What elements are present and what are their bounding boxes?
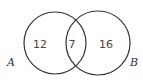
set-a-only-count: 12	[33, 38, 47, 51]
venn-diagram: 12 7 16 A B	[0, 0, 143, 81]
set-b-only-count: 16	[99, 38, 113, 51]
set-b-label: B	[129, 56, 138, 69]
intersection-count: 7	[69, 38, 76, 51]
set-b-circle	[66, 11, 130, 75]
set-a-label: A	[6, 56, 15, 69]
venn-svg: 12 7 16 A B	[0, 0, 143, 81]
